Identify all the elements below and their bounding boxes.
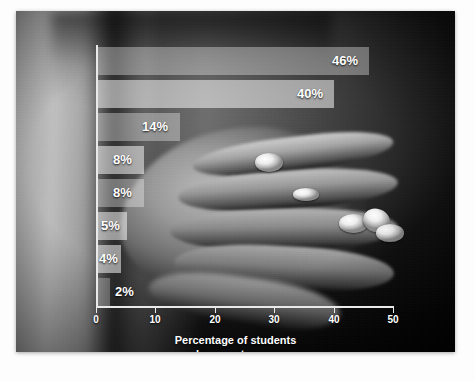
x-tick-label-50: 50 [378, 314, 408, 325]
chart-figure: Reduce stress 46% Get high 40% Social [16, 11, 455, 352]
bar-chart-overlay: Reduce stress 46% Get high 40% Social [16, 11, 455, 352]
value-label-cant-stop: 2% [115, 278, 134, 306]
value-label-help-study: 8% [113, 179, 132, 207]
x-axis-title: Percentage of students who report reason [16, 333, 455, 352]
x-axis-title-line1: Percentage of students [16, 333, 455, 347]
x-tick-30 [274, 308, 275, 313]
value-label-reduce-stress: 46% [332, 47, 358, 75]
bar-cant-stop[interactable] [97, 278, 110, 306]
cropped-caption-strip [0, 355, 475, 381]
value-label-experiment: 8% [113, 146, 132, 174]
value-label-lose-inhibitions: 5% [101, 212, 120, 240]
x-tick-20 [215, 308, 216, 313]
x-tick-label-20: 20 [200, 314, 230, 325]
x-tick-40 [334, 308, 335, 313]
x-tick-label-40: 40 [319, 314, 349, 325]
x-axis-title-line2: who report reason [16, 347, 455, 352]
value-label-enjoyment: 4% [99, 245, 118, 273]
figure-page: Reduce stress 46% Get high 40% Social [0, 0, 475, 381]
x-tick-0 [96, 308, 97, 313]
x-tick-label-10: 10 [140, 314, 170, 325]
x-tick-10 [155, 308, 156, 313]
x-tick-50 [393, 308, 394, 313]
value-label-social-pressure: 14% [142, 113, 168, 141]
x-tick-label-30: 30 [259, 314, 289, 325]
x-axis-line [96, 306, 394, 308]
bar-reduce-stress[interactable] [97, 47, 369, 75]
x-tick-label-0: 0 [81, 314, 111, 325]
value-label-get-high: 40% [297, 80, 323, 108]
y-axis-line [96, 45, 98, 307]
